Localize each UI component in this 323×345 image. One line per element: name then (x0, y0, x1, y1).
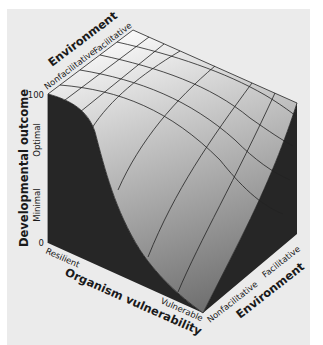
z-level-minimal: Minimal (32, 188, 42, 221)
z-level-optimal: Optimal (32, 123, 42, 157)
z-axis-title: Developmental outcome (17, 89, 31, 247)
surface-plot: 100 0 Optimal Minimal Developmental outc… (0, 0, 323, 345)
z-tick-0: 0 (39, 238, 44, 248)
